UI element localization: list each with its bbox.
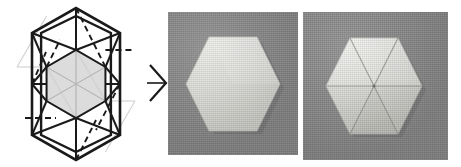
panel-crease-pattern	[0, 0, 152, 167]
panel-photo-radial-creases	[303, 12, 448, 160]
origami-step-figure	[0, 0, 461, 167]
crease-pattern-svg	[0, 0, 152, 167]
chevron-right-icon	[147, 62, 169, 104]
photo-blank-hexagon-svg	[168, 12, 298, 155]
crease-center-point	[372, 84, 375, 87]
step-arrow	[147, 62, 169, 104]
photo-radial-hexagon-svg	[303, 12, 448, 160]
panel-photo-folded-blank	[168, 12, 298, 155]
